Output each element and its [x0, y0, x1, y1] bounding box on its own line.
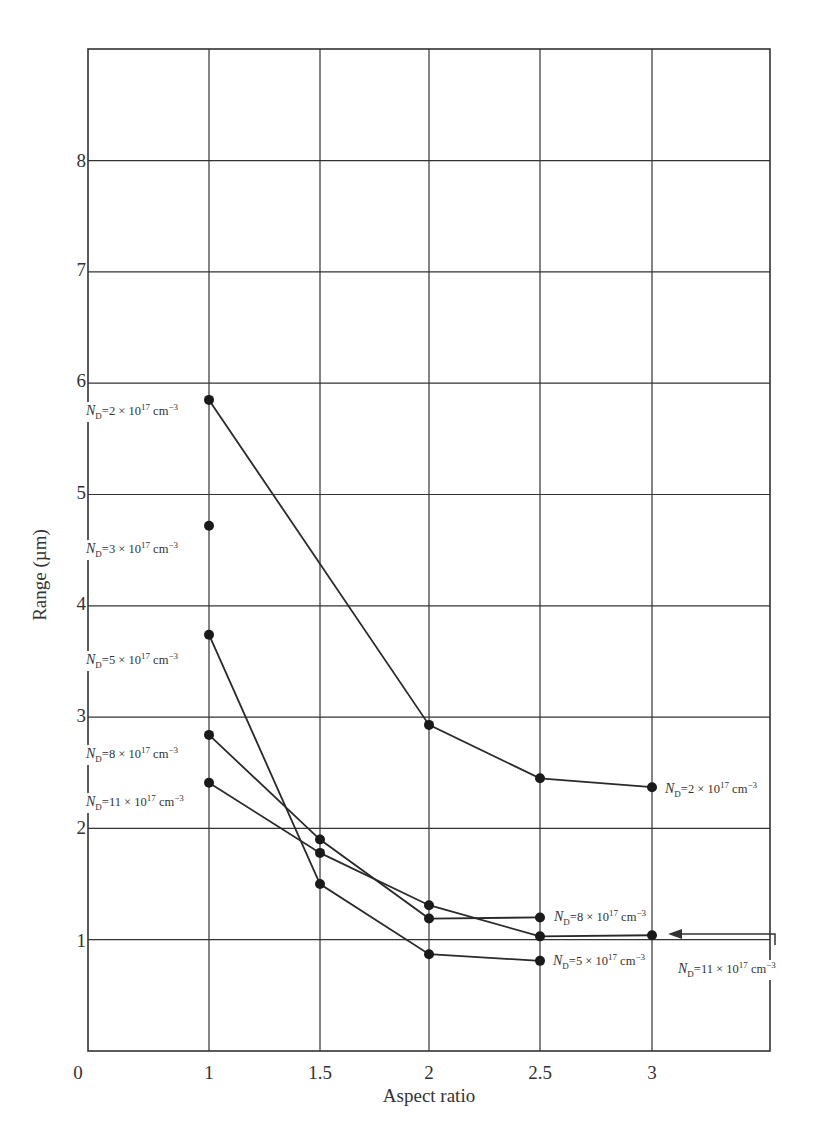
x-axis-title: Aspect ratio	[0, 1085, 836, 1107]
x-tick-label: 2.5	[528, 1062, 552, 1084]
y-tick-label: 5	[66, 482, 86, 504]
data-point-marker	[204, 778, 214, 788]
data-point-marker	[204, 730, 214, 740]
data-point-marker	[204, 521, 214, 531]
data-point-marker	[535, 956, 545, 966]
x-tick-label: 1	[204, 1062, 214, 1084]
y-tick-label: 1	[66, 930, 86, 952]
data-point-marker	[535, 912, 545, 922]
data-point-marker	[424, 720, 434, 730]
y-tick-label: 2	[66, 817, 86, 839]
annotation-nd-11-right: ND=11 × 1017 cm−3	[678, 960, 776, 980]
data-point-marker	[315, 848, 325, 858]
data-point-marker	[424, 949, 434, 959]
x-tick-label: 1.5	[308, 1062, 332, 1084]
data-point-marker	[535, 931, 545, 941]
data-point-marker	[204, 395, 214, 405]
y-tick-label: 4	[66, 593, 86, 615]
annotation-nd-8-right: ND=8 × 1017 cm−3	[554, 908, 646, 928]
data-point-marker	[424, 900, 434, 910]
x-tick-label: 3	[647, 1062, 657, 1084]
series-lines	[209, 400, 652, 961]
data-point-marker	[315, 879, 325, 889]
data-point-marker	[424, 914, 434, 924]
annotation-nd-11-left: ND=11 × 1017 cm−3	[86, 793, 184, 813]
data-point-marker	[647, 930, 657, 940]
annotation-nd-5-left: ND=5 × 1017 cm−3	[86, 651, 178, 671]
annotation-nd-8-left: ND=8 × 1017 cm−3	[86, 745, 178, 765]
y-tick-label: 3	[66, 705, 86, 727]
data-point-marker	[204, 630, 214, 640]
annotation-nd-3-left: ND=3 × 1017 cm−3	[86, 540, 178, 560]
annotation-arrow	[668, 929, 775, 945]
series-line	[209, 735, 540, 919]
data-point-marker	[647, 782, 657, 792]
series-points	[204, 395, 657, 966]
y-axis-title: Range (µm)	[29, 529, 51, 621]
annotation-nd-2-left: ND=2 × 1017 cm−3	[86, 402, 178, 422]
x-tick-label: 0	[73, 1062, 83, 1084]
y-tick-label: 6	[66, 370, 86, 392]
data-point-marker	[535, 773, 545, 783]
data-point-marker	[315, 835, 325, 845]
series-line	[209, 635, 540, 961]
annotation-nd-2-right: ND=2 × 1017 cm−3	[665, 780, 757, 800]
x-tick-label: 2	[424, 1062, 434, 1084]
annotation-nd-5-right: ND=5 × 1017 cm−3	[553, 952, 645, 972]
arrowhead-icon	[668, 929, 682, 939]
y-tick-label: 7	[66, 259, 86, 281]
y-tick-label: 8	[66, 150, 86, 172]
